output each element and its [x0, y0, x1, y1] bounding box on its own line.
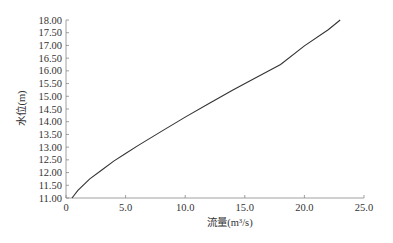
y-axis: 11.0011.5012.0012.5013.0013.5014.0014.50… — [38, 15, 69, 204]
y-tick-label: 11.00 — [39, 193, 62, 204]
x-tick-label: 20.0 — [295, 202, 313, 213]
data-line — [72, 20, 340, 198]
x-tick-label: 10.0 — [176, 202, 194, 213]
y-axis-title: 水位(m) — [15, 90, 28, 126]
x-tick-label: 5.0 — [119, 202, 132, 213]
x-tick-label: 15.0 — [236, 202, 254, 213]
stage-discharge-chart: 11.0011.5012.0012.5013.0013.5014.0014.50… — [0, 0, 393, 243]
x-tick-label: 0 — [63, 202, 68, 213]
y-tick-label: 17.00 — [38, 40, 62, 51]
y-tick-label: 18.00 — [38, 15, 62, 26]
y-tick-label: 16.00 — [38, 65, 62, 76]
y-tick-label: 11.50 — [39, 180, 62, 191]
x-tick-label: 25.0 — [355, 202, 373, 213]
chart-canvas: 11.0011.5012.0012.5013.0013.5014.0014.50… — [0, 0, 393, 243]
y-tick-label: 12.00 — [38, 167, 62, 178]
x-axis-title: 流量(m³/s) — [207, 216, 253, 229]
y-tick-label: 13.50 — [38, 129, 62, 140]
y-tick-label: 12.50 — [38, 154, 62, 165]
y-tick-label: 14.50 — [38, 104, 62, 115]
y-tick-label: 14.00 — [38, 116, 62, 127]
y-tick-label: 17.50 — [38, 27, 62, 38]
y-tick-label: 13.00 — [38, 142, 62, 153]
y-tick-label: 16.50 — [38, 53, 62, 64]
y-tick-label: 15.50 — [38, 78, 62, 89]
y-tick-label: 15.00 — [38, 91, 62, 102]
x-axis: 05.010.015.020.025.0 — [63, 195, 373, 213]
